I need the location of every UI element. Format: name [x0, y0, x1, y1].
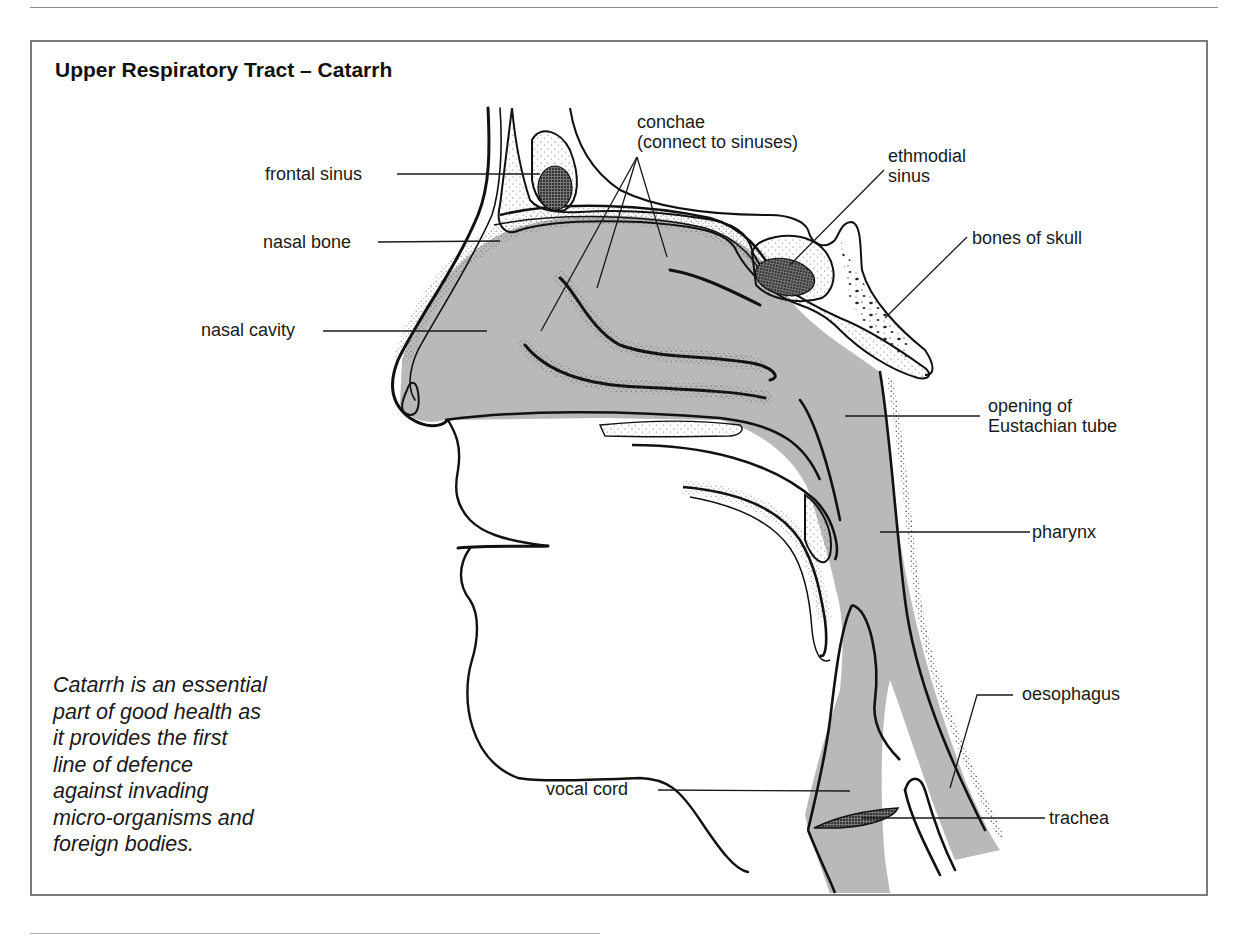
label-ethmodial-sinus-line2: sinus — [888, 166, 930, 186]
label-nasal-bone: nasal bone — [263, 232, 351, 252]
frontal-sinus-shape — [532, 131, 577, 211]
label-ethmodial-sinus-line1: ethmodial — [888, 146, 966, 166]
label-trachea: trachea — [1049, 808, 1109, 828]
label-eustachian-line1: opening of — [988, 396, 1072, 416]
label-frontal-sinus: frontal sinus — [265, 164, 362, 184]
label-nasal-cavity: nasal cavity — [201, 320, 295, 340]
label-bones-of-skull: bones of skull — [972, 228, 1082, 248]
figure-title: Upper Respiratory Tract – Catarrh — [55, 58, 392, 82]
label-pharynx: pharynx — [1032, 522, 1096, 542]
label-eustachian-line2: Eustachian tube — [988, 416, 1117, 436]
label-conchae: conchae — [637, 112, 705, 132]
palate — [445, 412, 837, 562]
figure-caption: Catarrh is an essential part of good hea… — [53, 672, 267, 858]
bottom-rule — [30, 933, 600, 934]
label-conchae-note: (connect to sinuses) — [637, 132, 798, 152]
label-vocal-cord: vocal cord — [546, 779, 628, 799]
label-oesophagus: oesophagus — [1022, 684, 1120, 704]
